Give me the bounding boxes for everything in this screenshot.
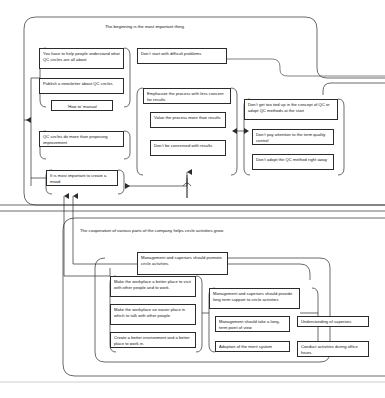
node-dont-adopt-method: Don’t adopt the QC method right away — [252, 154, 334, 170]
node-create-a-mood: It is most important to create a mood — [46, 170, 118, 186]
node-better-environment: Create a better environment and a better… — [110, 332, 196, 348]
node-understanding-of-superiors: Understanding of superiors — [297, 316, 369, 327]
node-dont-start-difficult: Don’t start with difficult problems — [137, 48, 227, 64]
node-emphasize-process: Emphasize the process with less concern … — [143, 88, 231, 104]
node-long-term-support: Management and superiors should provide … — [209, 288, 300, 309]
node-merit-system: Adoption of the merit system — [215, 341, 290, 352]
node-more-than-proposing: QC circles do more than proposing improv… — [39, 131, 124, 147]
node-dont-pay-attention: Don’t pay attention to the term quality … — [252, 129, 334, 145]
node-easier-place-talk: Make the workplace an easier place in wh… — [110, 304, 196, 325]
node-value-process: Value the process more than results — [150, 112, 226, 128]
node-office-hours: Conduct activities during office hours. — [297, 341, 369, 357]
node-dont-get-tied-up: Don’t get too tied up in the concept of … — [244, 99, 338, 120]
node-better-place-visit: Make the workplace a better place to vis… — [110, 276, 196, 297]
diagram-canvas: The beginning is the most important thin… — [0, 0, 385, 398]
node-long-term-view: Management should take a long-term point… — [215, 316, 290, 332]
node-newsletter: Publish a newsletter about QC circles — [39, 78, 124, 94]
node-how-to-manual: ‘How to’ manual — [51, 100, 113, 111]
node-dont-be-concerned: Don’t be concerned with results — [150, 140, 226, 156]
node-promote-circle: Management and superiors should promote … — [137, 252, 228, 275]
section-title-beginning: The beginning is the most important thin… — [105, 24, 185, 29]
section-title-cooperation: The cooperation of various parts of the … — [80, 228, 224, 233]
node-help-people: You have to help people understand what … — [39, 48, 124, 69]
